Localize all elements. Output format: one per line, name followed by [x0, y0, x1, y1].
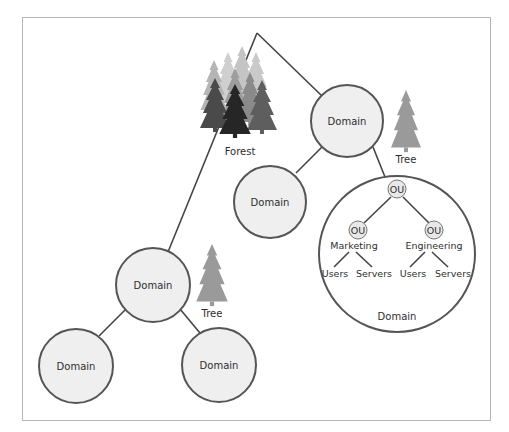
container-servers-engineering: Servers — [435, 268, 471, 279]
domain-node-bottom-left[interactable]: Domain — [39, 329, 113, 403]
ou-label: OU — [427, 225, 441, 236]
domain-node-top-right[interactable]: Domain — [311, 85, 383, 157]
domain-label: Domain — [200, 360, 239, 371]
tree-label: Tree — [201, 308, 223, 319]
tree-icon — [391, 90, 421, 152]
edge-mid-left-to-bottom-right — [180, 309, 200, 333]
ou-node-root[interactable]: OU — [388, 180, 406, 198]
edge-top-right-to-mid-right — [296, 146, 323, 173]
container-servers-marketing: Servers — [356, 268, 392, 279]
tree-icon — [196, 244, 228, 306]
forest-icon — [200, 46, 277, 138]
domain-label: Domain — [378, 311, 417, 322]
domain-node-mid-right[interactable]: Domain — [234, 166, 306, 238]
container-users-marketing: Users — [322, 268, 349, 279]
ou-name-engineering: Engineering — [406, 240, 463, 251]
domain-label: Domain — [134, 280, 173, 291]
tree-label: Tree — [395, 154, 417, 165]
ou-label: OU — [390, 184, 404, 195]
ou-name-marketing: Marketing — [330, 240, 377, 251]
active-directory-diagram: Forest Domain Tree Domain OU OU Marketin… — [0, 0, 509, 432]
domain-label: Domain — [328, 116, 367, 127]
edge-top-right-to-expanded — [373, 147, 385, 177]
edge-forest-to-top-right — [257, 33, 322, 96]
container-users-engineering: Users — [400, 268, 427, 279]
edge-mid-left-to-bottom-left — [99, 309, 126, 336]
domain-node-mid-left[interactable]: Domain — [116, 248, 190, 322]
forest-label: Forest — [225, 146, 256, 157]
ou-label: OU — [351, 225, 365, 236]
domain-node-expanded[interactable]: OU OU Marketing OU Engineering Users Ser… — [319, 176, 475, 332]
domain-label: Domain — [57, 361, 96, 372]
domain-label: Domain — [251, 197, 290, 208]
domain-node-bottom-right[interactable]: Domain — [182, 328, 256, 402]
